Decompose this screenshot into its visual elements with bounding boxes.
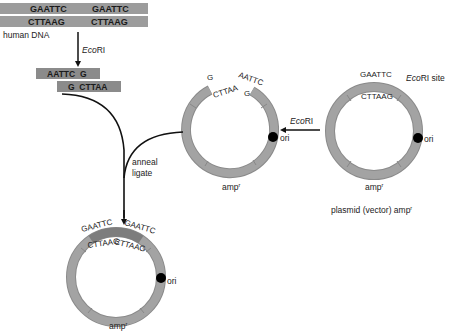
- human-dna-label: human DNA: [3, 30, 50, 40]
- ori-dot-icon: [268, 132, 278, 142]
- vector-site-bottom: CTTAAG: [361, 92, 393, 101]
- cut-plasmid: ori G CTTAA AATTC G ampr: [186, 70, 289, 192]
- fragment-bottom-text: G CTTAA: [68, 82, 108, 92]
- bottom-site-2: CTTAAG: [91, 17, 128, 27]
- recombinant-ori-label: ori: [167, 276, 177, 286]
- ori-dot-icon: [156, 273, 166, 283]
- dna-fragment: AATTC G G CTTAA: [36, 68, 121, 92]
- recombinant-amp-label: ampr: [109, 321, 128, 331]
- cut-plasmid-ring: [186, 90, 274, 173]
- vector-amp-label: ampr: [365, 182, 384, 192]
- vector-enzyme-label: EcoRI: [290, 116, 313, 126]
- vector-ori-label: ori: [424, 134, 434, 144]
- top-site-1: GAATTC: [30, 4, 67, 14]
- cut-right-bottom: G: [244, 89, 250, 98]
- vector-site-top: GAATTC: [360, 70, 392, 79]
- cut-left-top: G: [207, 73, 213, 82]
- vector-plasmid: ori GAATTC CTTAAG EcoRI site ampr plasmi…: [330, 70, 445, 215]
- fragment-path-line: [62, 94, 124, 218]
- cut-plasmid-ori-label: ori: [280, 133, 290, 143]
- top-site-2: GAATTC: [92, 4, 129, 14]
- fragment-top-text: AATTC G: [47, 69, 87, 79]
- anneal-label: anneal: [132, 157, 158, 167]
- digest-enzyme-label: EcoRI: [82, 45, 105, 55]
- recombinant-plasmid: ori GAATTC GAATTC CTTAAG CTTAAG ampr: [71, 217, 177, 331]
- ecori-site-label: EcoRI site: [406, 73, 445, 83]
- cut-left-bottom: CTTAA: [212, 83, 240, 100]
- cut-right-top: AATTC: [237, 70, 264, 87]
- bottom-site-1: CTTAAG: [28, 17, 65, 27]
- vector-caption: plasmid (vector) ampr: [331, 205, 412, 215]
- ori-dot-icon: [413, 133, 423, 143]
- human-dna: GAATTC GAATTC CTTAAG CTTAAG human DNA: [0, 3, 148, 40]
- cloning-diagram: GAATTC GAATTC CTTAAG CTTAAG human DNA Ec…: [0, 0, 450, 333]
- ligate-label: ligate: [132, 168, 153, 178]
- cut-plasmid-amp-label: ampr: [222, 182, 241, 192]
